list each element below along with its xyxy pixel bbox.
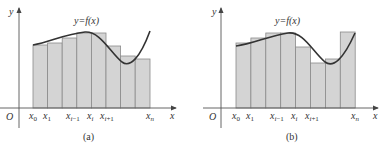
tick-labels-a: x0 x1 xi−1 xi xi+1 xn	[28, 110, 154, 123]
tick-labels-b: x0 x1 xi−1 xi xi+1 xn	[231, 110, 359, 123]
y-axis-label-b: y	[211, 6, 217, 17]
origin-label-b: O	[209, 111, 216, 122]
panel-b: y x O y=f(x) x0 x1 xi−1 xi xi+1 xn (b)	[203, 6, 378, 143]
caption-a: (a)	[83, 131, 94, 143]
svg-text:xi−1: xi−1	[65, 110, 80, 123]
svg-text:x0: x0	[28, 110, 37, 123]
riemann-sum-figure: y x O y=f(x) x0 x1 xi−1 xi xi+1 xn (a) y	[0, 0, 381, 159]
svg-text:xn: xn	[145, 110, 154, 123]
svg-text:x1: x1	[245, 110, 254, 123]
svg-text:x1: x1	[42, 110, 51, 123]
svg-text:xi−1: xi−1	[269, 110, 284, 123]
svg-text:xi: xi	[86, 110, 93, 123]
svg-text:xi+1: xi+1	[99, 110, 114, 123]
function-label-b: y=f(x)	[274, 15, 301, 27]
caption-b: (b)	[286, 131, 298, 143]
svg-text:xi+1: xi+1	[304, 110, 319, 123]
bars-b	[236, 32, 355, 108]
x-axis-label-a: x	[169, 110, 175, 121]
svg-text:xn: xn	[350, 110, 359, 123]
y-axis-label-a: y	[8, 6, 14, 17]
x-axis-label-b: x	[372, 110, 378, 121]
bars-a	[33, 33, 150, 108]
origin-label-a: O	[6, 111, 13, 122]
svg-text:xi: xi	[290, 110, 297, 123]
svg-text:x0: x0	[231, 110, 240, 123]
function-label-a: y=f(x)	[73, 15, 100, 27]
panel-a: y x O y=f(x) x0 x1 xi−1 xi xi+1 xn (a)	[0, 6, 176, 143]
